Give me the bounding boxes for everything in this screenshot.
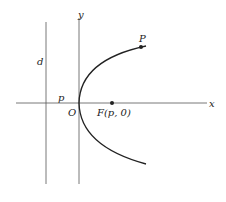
focus-point: [110, 101, 114, 105]
parabola-curve: [79, 46, 146, 164]
x-axis-label: x: [209, 98, 215, 109]
directrix-label: d: [37, 56, 43, 67]
origin-label: O: [68, 107, 76, 118]
focus-label: F(p, 0): [96, 107, 131, 118]
distance-label: p: [58, 92, 65, 103]
point-p: [139, 45, 143, 49]
y-axis-label: y: [77, 9, 84, 20]
point-p-label: P: [138, 33, 146, 44]
parabola-diagram: y x d p O F(p, 0) P: [0, 0, 226, 202]
